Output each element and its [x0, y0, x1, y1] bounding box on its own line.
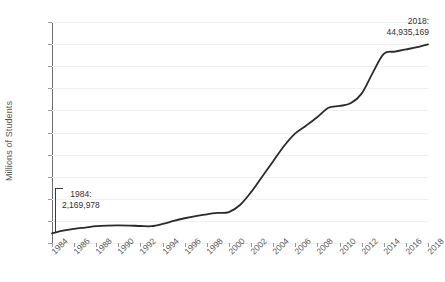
y-axis-title: Millions of Students — [0, 0, 18, 282]
leader-line-horizontal — [55, 188, 63, 189]
line-chart: Millions of Students 0510152025303540455… — [0, 0, 445, 282]
x-tick-label: 2018 — [426, 237, 445, 257]
annotation-start-value: 2,169,978 — [62, 200, 100, 211]
annotation-start-year: 1984: — [62, 189, 100, 200]
series-line — [52, 22, 428, 243]
annotation-end-year: 2018: — [331, 16, 429, 27]
plot-area: 05101520253035404550 1984198619881990199… — [52, 22, 428, 243]
leader-line-vertical — [55, 188, 56, 233]
annotation-end-value: 44,935,169 — [331, 27, 429, 38]
annotation-end-point: 2018: 44,935,169 — [331, 16, 429, 37]
annotation-start-point: 1984: 2,169,978 — [62, 189, 100, 210]
